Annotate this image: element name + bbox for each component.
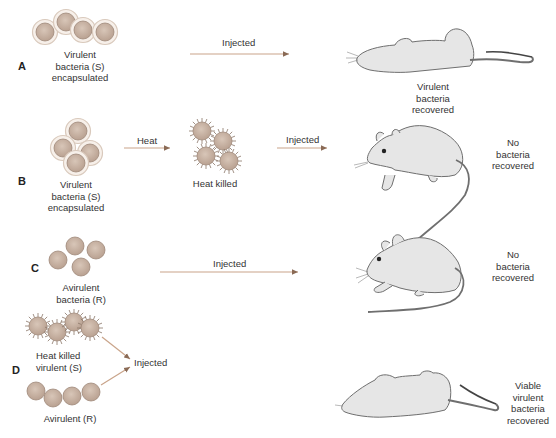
outcome-a-line3: recovered: [398, 104, 468, 116]
outcome-label-c: No bacteria recovered: [483, 249, 543, 284]
outcome-a-line2: bacteria: [398, 93, 468, 105]
encapsulated-bacteria-b: [51, 119, 103, 176]
row-letter-d: D: [12, 364, 20, 376]
bacteria-label-b: Virulent bacteria (S) encapsulated: [36, 179, 116, 214]
bacteria-label-a: Virulent bacteria (S) encapsulated: [40, 49, 120, 84]
arrow-label-injected-d: Injected: [134, 357, 167, 368]
outcome-a-line1: Virulent: [398, 81, 468, 93]
outcome-d-line4: recovered: [500, 415, 556, 427]
outcome-label-a: Virulent bacteria recovered: [398, 81, 468, 116]
bacteria-label-c: Avirulent bacteria (R): [48, 282, 114, 305]
outcome-c-line3: recovered: [483, 272, 543, 284]
arrow-avirulent-to-injected-d: [101, 367, 130, 385]
outcome-label-b: No bacteria recovered: [483, 137, 543, 172]
bacteria-label-c-line1: Avirulent: [48, 282, 114, 294]
encapsulated-bacteria-a: [33, 10, 118, 45]
outcome-label-d: Viable virulent bacteria recovered: [500, 380, 556, 426]
bacteria-label-b-line2: bacteria (S): [36, 191, 116, 203]
outcome-c-line1: No: [483, 249, 543, 261]
mouse-alive-b: [354, 126, 469, 246]
outcome-d-line2: virulent: [500, 392, 556, 404]
row-letter-a: A: [18, 60, 26, 72]
arrow-label-injected-a: Injected: [222, 37, 255, 48]
mouse-dead-d: [335, 371, 498, 417]
arrow-label-injected-b: Injected: [286, 134, 319, 145]
outcome-b-line1: No: [483, 137, 543, 149]
bacteria-label-a-line3: encapsulated: [40, 72, 120, 84]
bacteria-label-d-top-line2: virulent (S): [36, 362, 96, 374]
arrow-heat-killed-to-injected-d: [102, 337, 130, 359]
arrow-label-heat-b: Heat: [137, 135, 157, 146]
outcome-d-line3: bacteria: [500, 403, 556, 415]
bacteria-label-c-line2: bacteria (R): [48, 294, 114, 306]
bacteria-label-b-line3: encapsulated: [36, 202, 116, 214]
bacteria-label-d-top-line1: Heat killed: [36, 350, 96, 362]
mouse-dead-a: [346, 29, 533, 73]
rough-bacteria-c: [49, 237, 105, 276]
heat-killed-bacteria-d: [25, 309, 103, 345]
rough-bacteria-d: [27, 382, 100, 407]
bacteria-label-b-line1: Virulent: [36, 179, 116, 191]
bacteria-label-a-line2: bacteria (S): [40, 61, 120, 73]
row-letter-c: C: [31, 262, 39, 274]
bacteria-label-d-top: Heat killed virulent (S): [36, 350, 96, 373]
mouse-alive-c: [356, 235, 464, 312]
arrow-label-injected-c: Injected: [213, 258, 246, 269]
heat-killed-bacteria-b: [189, 118, 242, 174]
intermediate-label-b: Heat killed: [185, 178, 245, 190]
outcome-b-line3: recovered: [483, 160, 543, 172]
bacteria-label-d-bottom: Avirulent (R): [40, 413, 100, 425]
outcome-d-line1: Viable: [500, 380, 556, 392]
bacteria-label-a-line1: Virulent: [40, 49, 120, 61]
row-letter-b: B: [18, 175, 26, 187]
outcome-b-line2: bacteria: [483, 149, 543, 161]
outcome-c-line2: bacteria: [483, 261, 543, 273]
